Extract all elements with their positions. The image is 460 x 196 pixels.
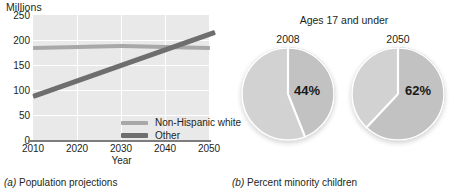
legend-item-non-hispanic-white: Non-Hispanic white bbox=[121, 116, 241, 129]
caption-tag-a: (a) bbox=[4, 177, 16, 188]
y-tick-label: 150 bbox=[0, 60, 30, 71]
series-line-non-hispanic-white bbox=[33, 43, 122, 49]
x-axis-title: Year bbox=[33, 155, 210, 166]
x-axis-line bbox=[28, 140, 211, 142]
pie-chart-2008 bbox=[241, 47, 335, 141]
caption-panel-a: (a) Population projections bbox=[4, 177, 117, 188]
pie-value-2008: 44% bbox=[294, 83, 320, 98]
pie-wrap-2050: 62% bbox=[351, 47, 445, 141]
pie-value-2050: 62% bbox=[405, 83, 431, 98]
pie-label-2050: 2050 bbox=[346, 33, 450, 45]
pie-block-2008: 2008 44% bbox=[236, 33, 340, 141]
x-tick-label: 2050 bbox=[186, 143, 232, 154]
pies-title: Ages 17 and under bbox=[228, 14, 460, 26]
y-tick-label: 100 bbox=[0, 85, 30, 96]
y-tick-label: 250 bbox=[0, 10, 30, 21]
panel-a-line-chart: Millions 250 200 150 100 50 0 bbox=[0, 0, 228, 196]
y-tick-label: 200 bbox=[0, 35, 30, 46]
caption-panel-b: (b) Percent minority children bbox=[232, 177, 357, 188]
y-axis-tick-labels: 250 200 150 100 50 0 bbox=[0, 15, 30, 140]
figure-population-projections: Millions 250 200 150 100 50 0 bbox=[0, 0, 460, 196]
chart-legend: Non-Hispanic white Other bbox=[121, 116, 241, 142]
caption-text-b: Percent minority children bbox=[244, 177, 357, 188]
pie-block-2050: 2050 62% bbox=[346, 33, 450, 141]
panel-b-pie-charts: Ages 17 and under 2008 44% bbox=[228, 0, 460, 196]
caption-text-a: Population projections bbox=[16, 177, 117, 188]
x-tick-label: 2020 bbox=[54, 143, 100, 154]
legend-swatch-non-hispanic-white bbox=[121, 121, 148, 125]
x-tick-label: 2040 bbox=[142, 143, 188, 154]
x-tick-label: 2010 bbox=[10, 143, 56, 154]
y-tick-label: 50 bbox=[0, 110, 30, 121]
caption-tag-b: (b) bbox=[232, 177, 244, 188]
x-tick-label: 2030 bbox=[98, 143, 144, 154]
pie-label-2008: 2008 bbox=[236, 33, 340, 45]
legend-swatch-other bbox=[121, 133, 148, 138]
pie-wrap-2008: 44% bbox=[241, 47, 335, 141]
plot-area: Non-Hispanic white Other bbox=[33, 15, 210, 140]
pie-svg-2008 bbox=[241, 47, 335, 141]
